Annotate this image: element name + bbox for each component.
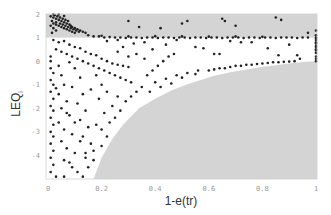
- data-point: [59, 22, 62, 25]
- data-point: [90, 142, 93, 145]
- data-point: [301, 36, 304, 39]
- data-point: [234, 65, 237, 68]
- data-point: [130, 95, 133, 98]
- data-point: [52, 123, 55, 126]
- data-point: [95, 54, 98, 57]
- data-point: [154, 81, 157, 84]
- data-point: [106, 40, 109, 43]
- data-point: [87, 126, 90, 129]
- data-point: [199, 36, 202, 39]
- data-point: [111, 105, 114, 108]
- data-point: [173, 37, 176, 40]
- data-point: [186, 72, 189, 75]
- data-point: [71, 30, 74, 33]
- data-point: [127, 35, 130, 38]
- data-point: [79, 140, 82, 143]
- data-point: [92, 65, 95, 68]
- data-point: [59, 16, 62, 19]
- y-tick-label: -4: [32, 152, 40, 160]
- data-point: [197, 69, 200, 72]
- data-point: [248, 36, 251, 39]
- data-point: [98, 67, 101, 70]
- x-tick-label: 0: [46, 185, 50, 193]
- data-point: [141, 37, 144, 40]
- data-point: [52, 135, 55, 138]
- data-point: [124, 37, 127, 40]
- data-point: [52, 109, 55, 112]
- data-point: [84, 152, 87, 155]
- data-point: [52, 98, 55, 101]
- data-point: [108, 72, 111, 75]
- data-point: [221, 37, 224, 40]
- svg-text:LEQi: LEQi: [9, 91, 24, 117]
- data-point: [63, 21, 66, 24]
- data-point: [63, 40, 66, 43]
- data-point: [100, 83, 103, 86]
- data-point: [127, 20, 130, 23]
- data-point: [119, 36, 122, 39]
- data-point: [183, 36, 186, 39]
- data-point: [280, 36, 283, 39]
- data-point: [49, 116, 52, 119]
- data-point: [221, 17, 224, 20]
- data-point: [57, 24, 60, 27]
- data-point: [57, 121, 60, 124]
- data-point: [61, 17, 64, 20]
- data-point: [245, 63, 248, 66]
- data-point: [92, 159, 95, 162]
- data-point: [49, 60, 52, 63]
- data-point: [49, 171, 52, 174]
- data-point: [108, 36, 111, 39]
- data-point: [67, 20, 70, 23]
- data-point: [124, 79, 127, 82]
- data-point: [256, 63, 259, 66]
- data-point: [52, 149, 55, 152]
- data-point: [250, 63, 253, 66]
- data-point: [63, 27, 66, 30]
- data-point: [119, 76, 122, 79]
- x-axis-label: 1-e(tr): [165, 194, 198, 208]
- data-point: [291, 36, 294, 39]
- data-point: [51, 32, 54, 35]
- data-point: [95, 74, 98, 77]
- data-point: [154, 35, 157, 38]
- data-point: [240, 41, 243, 44]
- data-point: [51, 20, 54, 23]
- data-point: [49, 105, 52, 108]
- data-point: [132, 42, 135, 45]
- data-point: [293, 60, 296, 63]
- data-point: [87, 166, 90, 169]
- data-point: [296, 37, 299, 40]
- data-point: [55, 48, 58, 51]
- y-tick-label: 2: [36, 11, 40, 19]
- data-point: [135, 90, 138, 93]
- data-point: [55, 87, 58, 90]
- data-point: [234, 35, 237, 38]
- data-point: [162, 60, 165, 63]
- data-point: [122, 46, 125, 49]
- data-point: [84, 32, 87, 35]
- data-point: [65, 147, 68, 150]
- data-point: [95, 123, 98, 126]
- data-point: [52, 22, 55, 25]
- data-point: [178, 36, 181, 39]
- data-point: [307, 36, 310, 39]
- data-point: [159, 27, 162, 30]
- data-point: [69, 27, 72, 30]
- data-point: [79, 47, 82, 50]
- data-point: [98, 35, 101, 38]
- data-point: [57, 41, 60, 44]
- data-point: [71, 86, 74, 89]
- data-point: [55, 175, 58, 178]
- data-point: [74, 32, 77, 35]
- data-point: [57, 19, 60, 22]
- data-point: [106, 60, 109, 63]
- data-point: [288, 60, 291, 63]
- data-point: [60, 74, 63, 77]
- data-point: [49, 90, 52, 93]
- data-point: [194, 73, 197, 76]
- data-point: [64, 19, 67, 22]
- data-point: [90, 53, 93, 56]
- data-point: [76, 57, 79, 60]
- data-point: [92, 35, 95, 38]
